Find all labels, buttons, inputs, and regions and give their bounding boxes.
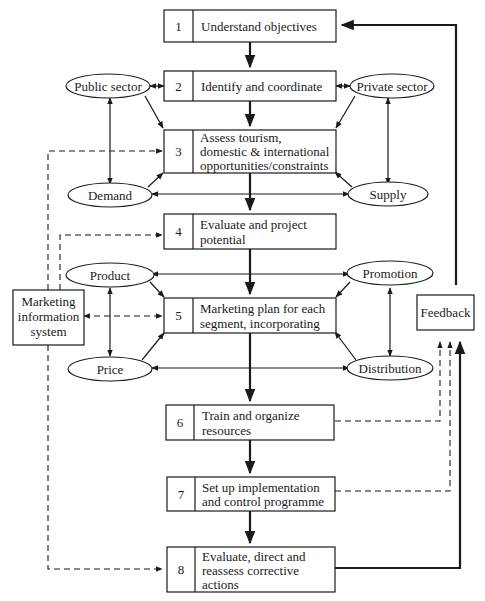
ellipse-private-sector: Private sector (350, 74, 434, 98)
step-label: potential (200, 232, 246, 247)
step-2-box: 2 Identify and coordinate (164, 71, 336, 101)
step-label: Evaluate and project (200, 217, 307, 232)
step-label: and control programme (202, 494, 324, 509)
step-7-box: 7 Set up implementation and control prog… (167, 477, 335, 511)
step-label: Train and organize (202, 408, 300, 423)
step-number: 7 (178, 487, 185, 502)
marketing-information-system-box: Marketing information system (13, 290, 84, 345)
marketing-planning-flowchart: 1 Understand objectives 2 Identify and c… (0, 0, 485, 601)
ellipse-product: Product (66, 263, 154, 287)
step-label: Understand objectives (201, 19, 317, 34)
step-label: actions (202, 577, 239, 592)
step-number: 5 (175, 308, 182, 323)
step-label: segment, incorporating (200, 316, 320, 331)
step-number: 6 (177, 415, 184, 430)
ellipse-public-sector: Public sector (66, 74, 150, 98)
step-4-box: 4 Evaluate and project potential (164, 214, 336, 249)
ellipse-demand: Demand (68, 183, 152, 207)
ellipse-supply: Supply (348, 182, 428, 206)
svg-text:information: information (18, 309, 80, 324)
step-number: 3 (175, 144, 182, 159)
ellipse-price: Price (68, 357, 152, 381)
svg-text:system: system (30, 324, 66, 339)
step-8-box: 8 Evaluate, direct and reassess correcti… (167, 547, 335, 592)
step-label: Set up implementation (202, 480, 320, 495)
step-number: 4 (175, 224, 182, 239)
step-number: 2 (175, 79, 182, 94)
svg-text:Price: Price (97, 362, 124, 377)
step-label: Marketing plan for each (200, 301, 326, 316)
step-label: Identify and coordinate (201, 79, 323, 94)
svg-text:Product: Product (90, 268, 131, 283)
step-label: opportunities/constraints (200, 158, 329, 173)
step-number: 1 (175, 19, 182, 34)
step-number: 8 (178, 562, 185, 577)
svg-text:Marketing: Marketing (21, 294, 76, 309)
feedback-box: Feedback (417, 295, 474, 330)
svg-text:Promotion: Promotion (363, 266, 418, 281)
step-5-box: 5 Marketing plan for each segment, incor… (164, 298, 336, 333)
svg-text:Public sector: Public sector (74, 79, 142, 94)
svg-text:Private sector: Private sector (356, 79, 428, 94)
svg-text:Demand: Demand (88, 188, 133, 203)
step-label: Evaluate, direct and (202, 549, 306, 564)
step-label: Assess tourism, (200, 130, 282, 145)
step-label: reassess corrective (202, 563, 299, 578)
step-6-box: 6 Train and organize resources (166, 405, 334, 440)
step-label: resources (202, 423, 251, 438)
ellipse-promotion: Promotion (347, 261, 433, 285)
svg-text:Supply: Supply (370, 187, 407, 202)
step-1-box: 1 Understand objectives (164, 10, 336, 42)
step-3-box: 3 Assess tourism, domestic & internation… (164, 130, 336, 173)
svg-text:Feedback: Feedback (421, 305, 471, 320)
svg-text:Distribution: Distribution (359, 361, 422, 376)
step-label: domestic & international (200, 144, 330, 159)
ellipse-distribution: Distribution (347, 356, 433, 380)
